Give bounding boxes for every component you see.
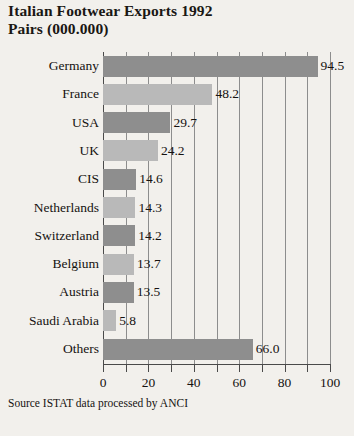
source-note: Source ISTAT data processed by ANCI [8,396,188,410]
chart-container: Italian Footwear Exports 1992 Pairs (000… [0,0,354,436]
category-label: Netherlands [0,194,99,222]
bar [103,254,134,275]
x-tick [262,364,263,372]
chart-title-line-1: Italian Footwear Exports 1992 [8,2,338,20]
category-label: Others [0,335,99,363]
bar-rows: 94.548.229.724.214.614.314.213.713.55.86… [103,52,330,364]
bar [103,112,170,133]
category-label: Austria [0,278,99,306]
bar [103,339,253,360]
chart-title-line-2: Pairs (000.000) [8,20,338,38]
x-tick [171,364,172,372]
bar-value-label: 24.2 [161,140,185,161]
category-label: Belgium [0,250,99,278]
bar [103,225,135,246]
bar-value-label: 14.6 [139,168,163,189]
x-tick-label: 60 [219,374,259,392]
x-tick-label: 40 [174,374,214,392]
x-tick [148,364,149,372]
bar-value-label: 29.7 [173,112,197,133]
bar-value-label: 13.5 [137,281,161,302]
bar-row: 94.5 [103,52,354,80]
bar-row: 14.3 [103,194,354,222]
x-tick [217,364,218,372]
bar-row: 13.5 [103,278,354,306]
category-label: Switzerland [0,222,99,250]
category-label: Saudi Arabia [0,307,99,335]
bar-row: 48.2 [103,80,354,108]
category-label: France [0,80,99,108]
x-tick [126,364,127,372]
x-axis-ticks [103,364,330,373]
category-label: UK [0,137,99,165]
chart-title: Italian Footwear Exports 1992 Pairs (000… [8,2,338,38]
bar-value-label: 66.0 [256,338,280,359]
bar-row: 29.7 [103,109,354,137]
bar-row: 13.7 [103,250,354,278]
x-axis-tick-labels: 020406080100 [0,374,354,392]
x-tick [239,364,240,372]
x-tick-label: 20 [128,374,168,392]
bar-row: 24.2 [103,137,354,165]
bar-value-label: 48.2 [215,83,239,104]
bar [103,56,318,77]
category-label: CIS [0,165,99,193]
x-tick [285,364,286,372]
bar [103,310,116,331]
bar-value-label: 5.8 [119,310,136,331]
category-label: USA [0,109,99,137]
x-tick-label: 0 [83,374,123,392]
x-tick-label: 100 [310,374,350,392]
bar-row: 5.8 [103,307,354,335]
category-label: Germany [0,52,99,80]
bar [103,197,135,218]
bar-value-label: 13.7 [137,253,161,274]
bar-value-label: 94.5 [321,55,345,76]
bar-row: 14.6 [103,165,354,193]
bar [103,169,136,190]
x-tick-label: 80 [265,374,305,392]
bar-value-label: 14.3 [138,197,162,218]
plot-area: 94.548.229.724.214.614.314.213.713.55.86… [103,52,330,364]
bar [103,282,134,303]
x-tick [307,364,308,372]
bar-value-label: 14.2 [138,225,162,246]
bar [103,84,212,105]
bar-row: 66.0 [103,335,354,363]
bar-row: 14.2 [103,222,354,250]
x-tick [330,364,331,372]
x-tick [194,364,195,372]
x-tick [103,364,104,372]
bar [103,140,158,161]
